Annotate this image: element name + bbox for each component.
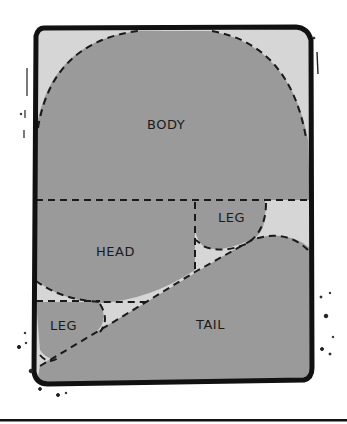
label-leg-lower: LEG [50,318,77,333]
bottom-rule [0,419,347,422]
diagram-canvas: BODY HEAD LEG LEG TAIL [0,0,347,424]
label-body: BODY [147,117,185,132]
label-leg-upper: LEG [218,210,245,225]
label-tail: TAIL [195,317,225,332]
label-head: HEAD [96,244,135,259]
frame-interior [30,24,320,390]
